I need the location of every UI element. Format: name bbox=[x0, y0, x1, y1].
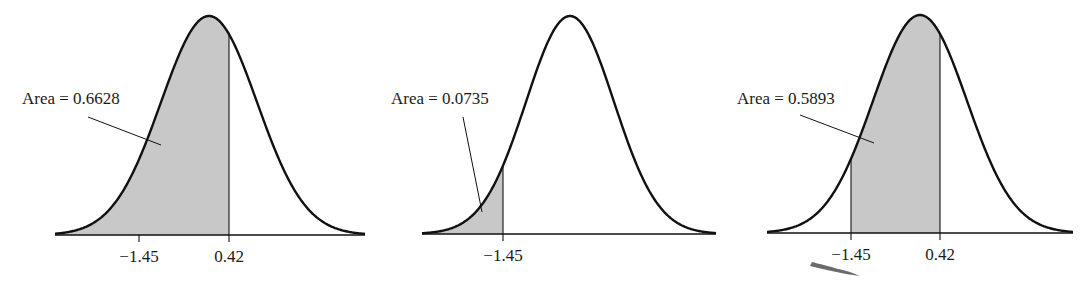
area-label: Area = 0.5893 bbox=[737, 89, 835, 108]
leader-line bbox=[463, 117, 482, 212]
normal-curve-panel-left-tail-neg1.45: −1.45Area = 0.0735 bbox=[391, 16, 716, 265]
tick-label: 0.42 bbox=[214, 247, 244, 266]
normal-curve-panel-between: −1.450.42Area = 0.5893 bbox=[737, 15, 1073, 264]
area-label: Area = 0.0735 bbox=[391, 89, 489, 108]
tick-label: −1.45 bbox=[831, 245, 870, 264]
normal-curve-panel-left-tail-0.42: −1.450.42Area = 0.6628 bbox=[22, 16, 365, 266]
area-label: Area = 0.6628 bbox=[22, 89, 120, 108]
tick-label: −1.45 bbox=[483, 246, 522, 265]
normal-curve bbox=[422, 16, 716, 233]
tick-label: 0.42 bbox=[925, 245, 955, 264]
tick-label: −1.45 bbox=[119, 247, 158, 266]
normal-distribution-figure: −1.450.42Area = 0.6628 −1.45Area = 0.073… bbox=[0, 0, 1086, 295]
shaded-area bbox=[55, 16, 229, 235]
pen-mark-artifact bbox=[810, 262, 860, 276]
